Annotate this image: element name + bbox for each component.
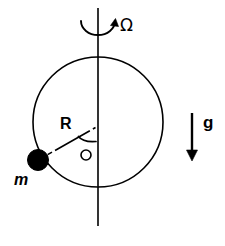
radius-label: R (60, 116, 72, 132)
angular-velocity-label: Ω (120, 17, 133, 34)
center-marker-icon (81, 150, 91, 160)
mass-label: m (14, 172, 28, 188)
bead-mass-marker (28, 150, 49, 171)
physics-diagram-figure: Ω R m g (0, 0, 225, 246)
diagram-canvas (0, 0, 225, 246)
rotation-arrow-icon (81, 19, 119, 36)
gravity-label: g (203, 114, 213, 131)
angle-arc (79, 137, 97, 142)
gravity-arrow-icon (187, 113, 198, 161)
